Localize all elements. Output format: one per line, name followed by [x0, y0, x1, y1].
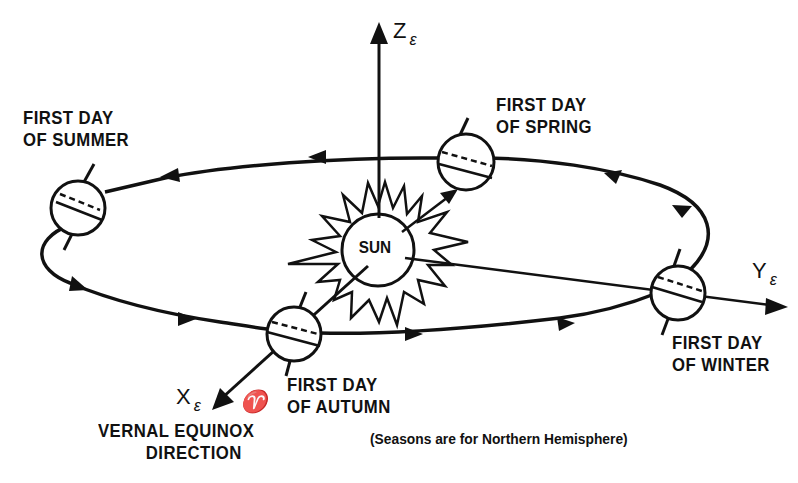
hemisphere-note: (Seasons are for Northern Hemisphere) [370, 430, 628, 447]
x-axis-subscript: ε [194, 397, 201, 414]
z-axis-label: Zε [393, 18, 416, 44]
ecliptic-orbit-diagram [0, 0, 798, 483]
winter-label: FIRST DAY OF WINTER [672, 332, 770, 376]
summer-label-line2: OF SUMMER [23, 129, 129, 151]
x-axis-label: Xε [176, 384, 201, 410]
y-axis-letter: Y [752, 258, 767, 283]
winter-label-line2: OF WINTER [672, 354, 770, 376]
vernal-equinox-label: VERNAL EQUINOX DIRECTION [98, 420, 254, 464]
earth-autumn [267, 292, 321, 376]
spring-label-line1: FIRST DAY [496, 94, 592, 116]
spring-label-line2: OF SPRING [496, 116, 592, 138]
earth-summer [51, 164, 105, 250]
y-axis-label: Yε [752, 258, 777, 284]
earth-spring [438, 118, 494, 190]
autumn-label-line1: FIRST DAY [287, 374, 391, 396]
y-axis [405, 258, 788, 315]
y-axis-subscript: ε [770, 271, 777, 288]
aries-symbol: ♈ [240, 388, 267, 414]
sun-label: SUN [359, 238, 391, 258]
summer-label: FIRST DAY OF SUMMER [23, 107, 129, 151]
winter-label-line1: FIRST DAY [672, 332, 770, 354]
autumn-label-line2: OF AUTUMN [287, 396, 391, 418]
summer-label-line1: FIRST DAY [23, 107, 129, 129]
vernal-equinox-line2: DIRECTION [98, 442, 254, 464]
z-axis-subscript: ε [409, 31, 416, 48]
z-axis-letter: Z [393, 18, 406, 43]
autumn-label: FIRST DAY OF AUTUMN [287, 374, 391, 418]
vernal-equinox-line1: VERNAL EQUINOX [98, 420, 254, 442]
x-axis-letter: X [176, 384, 191, 409]
spring-label: FIRST DAY OF SPRING [496, 94, 592, 138]
